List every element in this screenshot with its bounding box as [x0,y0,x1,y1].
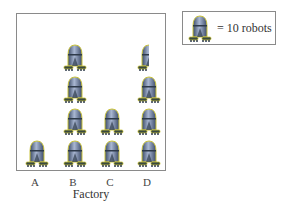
column-d [135,40,163,168]
x-axis-title: Factory [16,187,166,202]
pictograph-frame [16,13,166,171]
legend: = 10 robots [182,11,276,45]
robot-icon [136,138,162,168]
robot-icon [136,74,162,104]
robot-icon [62,42,88,72]
robot-icon [62,106,88,136]
robot-icon [62,74,88,104]
robot-icon [187,13,213,43]
robot-icon [24,138,50,168]
robot-icon [136,106,162,136]
column-a [23,136,51,168]
half-robot-icon [136,42,149,72]
column-c [98,104,126,168]
robot-icon [62,138,88,168]
robot-icon [99,106,125,136]
legend-text: = 10 robots [217,21,272,36]
column-b [61,40,89,168]
robot-icon [99,138,125,168]
